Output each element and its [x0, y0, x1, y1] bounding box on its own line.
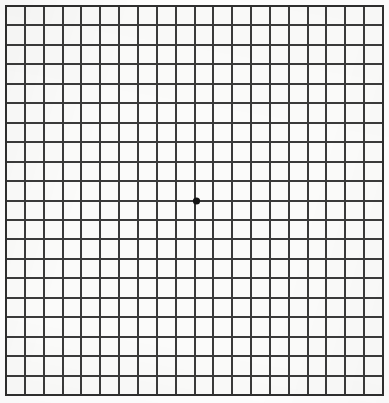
grid-container: [0, 0, 389, 403]
central-fixation-dot: [193, 197, 200, 204]
amsler-grid-chart: [0, 0, 389, 403]
grid-svg: [0, 0, 389, 403]
